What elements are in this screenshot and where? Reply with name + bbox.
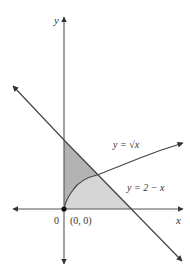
sqrt-curve-label: y = √x (112, 139, 140, 150)
origin-point-label: (0, 0) (70, 215, 92, 227)
origin-point (61, 206, 66, 211)
x-axis-label: x (175, 214, 181, 226)
line-y-equals-2-minus-x (13, 86, 64, 140)
diagram: y x 0 (0, 0) y = √x y = 2 − x (0, 0, 190, 275)
origin-label: 0 (54, 215, 59, 226)
line-label: y = 2 − x (126, 182, 165, 193)
diagram-canvas: y x 0 (0, 0) y = √x y = 2 − x (0, 0, 190, 275)
y-axis-label: y (53, 14, 59, 26)
